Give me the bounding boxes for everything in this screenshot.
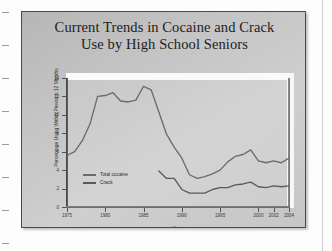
page-right-rule — [322, 0, 323, 251]
slide-title-line-1: Current Trends in Cocaine and Crack — [22, 19, 306, 36]
y-axis-tick — [62, 78, 66, 79]
y-axis-tick-label: 2 — [43, 186, 59, 191]
y-axis-tick — [62, 189, 66, 190]
slide-title: Current Trends in Cocaine and Crack Use … — [22, 19, 306, 52]
page-margin-mark — [2, 243, 9, 244]
x-axis-tick — [274, 208, 275, 212]
legend-item-crack: Crack — [83, 179, 128, 187]
legend-swatch-total-cocaine — [83, 174, 96, 175]
scanned-page: Current Trends in Cocaine and Crack Use … — [0, 0, 332, 251]
chart-legend: Total cocaine Crack — [83, 171, 128, 187]
y-axis-tick — [62, 152, 66, 153]
x-axis-tick — [105, 208, 106, 212]
page-margin-mark — [2, 210, 9, 211]
slide-title-line-2: Use by High School Seniors — [22, 36, 306, 53]
y-axis-tick-label: 0 — [43, 205, 59, 210]
page-margin-mark — [2, 12, 9, 13]
y-axis-tick — [62, 170, 66, 171]
page-margin-mark — [2, 78, 9, 79]
x-axis-tick-label: 1980 — [92, 213, 118, 219]
y-axis-tick — [62, 96, 66, 97]
x-axis-tick — [182, 208, 183, 212]
x-axis-tick — [289, 208, 290, 212]
x-axis-tick-label: 2004 — [276, 213, 302, 219]
x-axis-tick-label: 1975 — [54, 213, 80, 219]
series-line-crack — [159, 171, 289, 193]
legend-label-crack: Crack — [100, 179, 113, 188]
x-axis-tick — [144, 208, 145, 212]
x-axis-tick — [220, 208, 221, 212]
y-axis-title: Percentage Using Within Previous 12 Mont… — [54, 64, 59, 172]
x-axis-tick — [67, 208, 68, 212]
y-axis-tick — [62, 133, 66, 134]
x-axis-tick — [258, 208, 259, 212]
series-line-total-cocaine — [67, 86, 289, 178]
legend-swatch-crack — [83, 182, 96, 184]
plot-area — [67, 78, 289, 207]
presentation-slide: Current Trends in Cocaine and Crack Use … — [21, 11, 306, 228]
y-axis-tick — [62, 115, 66, 116]
page-margin-mark — [2, 177, 9, 178]
page-margin-mark — [2, 144, 9, 145]
series-lines — [67, 78, 289, 207]
x-axis-tick-label: 1995 — [207, 213, 233, 219]
page-margin-marks — [2, 12, 12, 247]
page-margin-mark — [2, 111, 9, 112]
y-axis-tick — [62, 207, 66, 208]
x-axis-tick-label: 1990 — [169, 213, 195, 219]
line-chart: 02468101214 1975198019851990199520002002… — [46, 67, 295, 222]
x-axis-tick-label: 1985 — [131, 213, 157, 219]
page-margin-mark — [2, 45, 9, 46]
x-axis-title: Year — [66, 225, 290, 228]
